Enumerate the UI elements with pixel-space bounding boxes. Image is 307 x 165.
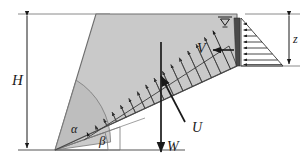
weight-label: W: [167, 140, 179, 154]
uplift-label: U: [192, 121, 202, 135]
water-thrust-label: V: [197, 42, 206, 56]
failure-plane-angle-label: β: [99, 134, 105, 147]
height-label: H: [12, 73, 23, 88]
crack-water-pressure-distribution: [241, 18, 283, 66]
water-depth-label: z: [293, 33, 298, 45]
slope-stability-diagram: [0, 0, 307, 165]
figure-root: H z W U V α β: [0, 0, 307, 165]
wedge-angle-label: α: [71, 123, 77, 135]
